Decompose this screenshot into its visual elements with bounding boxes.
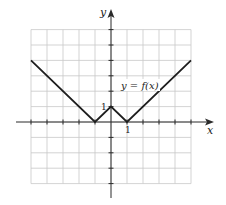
x-axis-label: x bbox=[207, 124, 214, 137]
function-graph: y x y = f(x) 1 1 bbox=[0, 0, 226, 205]
x-tick-label-1: 1 bbox=[125, 125, 131, 135]
y-tick-label-1: 1 bbox=[101, 102, 107, 112]
curve-label: y = f(x) bbox=[120, 80, 159, 91]
y-axis-label: y bbox=[99, 6, 107, 19]
axes bbox=[16, 9, 214, 198]
